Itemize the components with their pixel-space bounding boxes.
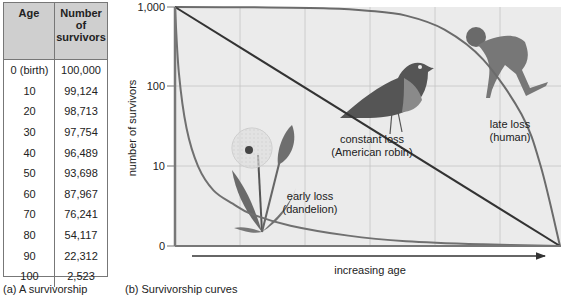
constant-loss-label: constant loss	[340, 133, 405, 145]
x-axis-label: increasing age	[334, 264, 406, 276]
y-tick-label: 0	[159, 240, 165, 252]
late-loss-label: (human)	[490, 131, 531, 143]
y-tick-label: 10	[153, 160, 165, 172]
y-tick-label: 1,000	[137, 1, 165, 13]
early-loss-label: (dandelion)	[282, 203, 337, 215]
y-tick-label: 100	[147, 80, 165, 92]
constant-loss-label: (American robin)	[331, 146, 412, 158]
y-ticks: 1,000100100	[137, 1, 175, 252]
late-loss-label: late loss	[490, 118, 531, 130]
early-loss-label: early loss	[287, 190, 334, 202]
y-axis-label: number of survivors	[126, 79, 138, 176]
